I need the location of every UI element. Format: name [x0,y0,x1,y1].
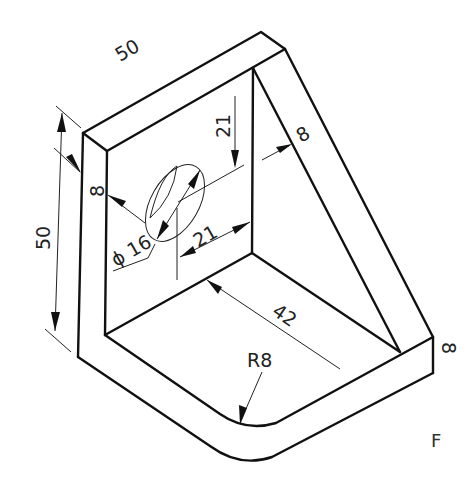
dim-top-length: 50 [111,34,143,65]
dim-height: 50 [32,226,54,250]
rib-outer-edge [285,49,433,337]
dim-rib-thickness: 8 [292,121,313,146]
back-plate-left-outer-edge [78,133,83,357]
base-bottom-front-edge [78,357,433,461]
dim-hole-horizontal: 21 [189,220,221,251]
dim-base-depth: 42 [269,299,301,331]
inner-corner-vertical-edge [252,68,253,253]
dim-base-thickness: 8 [438,342,460,354]
bracket-drawing: 50 50 8 21 8 ϕ 16 21 42 R8 8 F [0,0,474,487]
dimension-labels: 50 50 8 21 8 ϕ 16 21 42 R8 8 F [32,34,460,451]
back-plate-front-vertical-edge [105,151,107,335]
floor-side-edge [252,253,400,352]
dim-plate-thickness: 8 [86,185,108,197]
back-plate-top-inner-edge [83,49,285,151]
dimension-lines [45,96,340,425]
dim-hole-vertical: 21 [212,114,234,138]
view-label: F [431,430,441,451]
dim-fillet-radius: R8 [247,349,272,371]
